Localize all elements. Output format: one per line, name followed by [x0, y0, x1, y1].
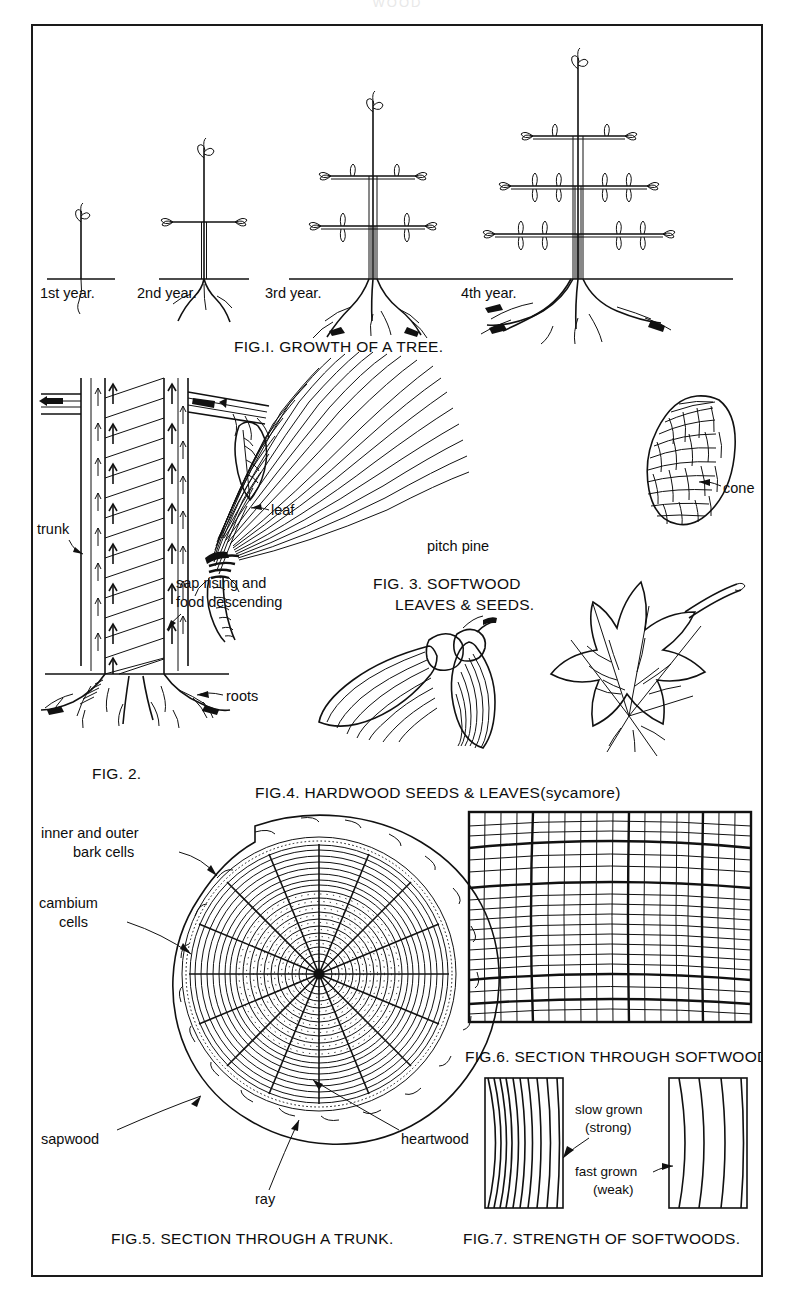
fig4-caption: FIG.4. HARDWOOD SEEDS & LEAVES(sycamore) [255, 784, 621, 801]
fig5-label-cambium-line1: cambium [39, 895, 98, 911]
fig4-left-wing-veins [327, 652, 437, 742]
fig4-samara [319, 616, 497, 748]
plate-frame: 1st year. 2nd year. 3rd year. 4th year. … [31, 24, 763, 1277]
fig6-growth-bands [469, 841, 751, 1004]
fig7-label-fast-weak: (weak) [593, 1182, 634, 1197]
fig2-heartwood-hatch [105, 378, 164, 674]
fig5-label-sapwood: sapwood [41, 1131, 99, 1147]
fig4-sycamore-leaf [551, 582, 745, 756]
fig5-label-heartwood: heartwood [401, 1131, 469, 1147]
fig3-label-cone: cone [723, 480, 754, 496]
figure-2-sap-flow: trunk leaf sap rising and food descendin… [37, 378, 295, 782]
fig2-branch-left [39, 394, 81, 414]
fig2-sap-arrows-inner-left [109, 384, 117, 674]
fig1-stage-label-2: 2nd year. [137, 285, 197, 301]
fig2-label-trunk: trunk [37, 521, 70, 537]
fig6-caption: FIG.6. SECTION THROUGH SOFTWOOD [465, 1048, 761, 1065]
figure-5-trunk-section: inner and outer bark cells cambium cells… [39, 815, 499, 1247]
fig7-label-fast-grown: fast grown [575, 1164, 637, 1179]
fig3-label-pitch-pine: pitch pine [427, 538, 489, 554]
fig3-caption-line2: LEAVES & SEEDS. [395, 596, 534, 613]
fig7-caption: FIG.7. STRENGTH OF SOFTWOODS. [463, 1230, 740, 1247]
fig2-sap-arrows-left [95, 388, 101, 651]
fig1-stage-label-4: 4th year. [461, 285, 517, 301]
fig7-label-slow-grown: slow grown [575, 1102, 643, 1117]
fig3-cone-scales [647, 401, 722, 524]
fig7-label-slow-strong: (strong) [585, 1120, 632, 1135]
fig5-medullary-rays [189, 844, 449, 1104]
fig5-bark-outline [173, 815, 499, 1144]
figure-6-softwood-cells: FIG.6. SECTION THROUGH SOFTWOOD [465, 812, 761, 1065]
fig3-caption-line1: FIG. 3. SOFTWOOD [373, 575, 521, 592]
fig2-label-roots: roots [226, 688, 258, 704]
fig3-cone [647, 396, 735, 525]
fig1-caption: FIG.I. GROWTH OF A TREE. [234, 338, 443, 355]
fig1-stage-label-3: 3rd year. [265, 285, 321, 301]
running-header: WOOD [0, 0, 795, 16]
fig5-caption: FIG.5. SECTION THROUGH A TRUNK. [111, 1230, 394, 1247]
fig5-label-bark-line1: inner and outer [41, 825, 139, 841]
fig5-label-ray: ray [255, 1191, 276, 1207]
fig4-right-wing-veins [456, 654, 489, 748]
fig6-cell-walls-horizontal [469, 821, 751, 1014]
figure-1-growth-of-a-tree: 1st year. 2nd year. 3rd year. 4th year. … [40, 48, 733, 355]
figure-4-hardwood-seeds-leaves: FIG.4. HARDWOOD SEEDS & LEAVES(sycamore) [255, 582, 745, 801]
fig2-caption: FIG. 2. [92, 765, 141, 782]
illustration-page: WOOD [0, 0, 795, 1313]
fig1-stage-label-1: 1st year. [40, 285, 95, 301]
fig7-sample-fast-grown [669, 1078, 747, 1208]
fig2-branch-right [188, 392, 269, 440]
figure-7-strength-of-softwoods: slow grown (strong) fast grown (weak) FI… [463, 1078, 747, 1247]
fig2-label-sap-line2: food descending [176, 594, 282, 610]
fig7-sample-slow-grown [485, 1078, 563, 1208]
running-header-text: WOOD [0, 0, 795, 10]
plate-drawing: 1st year. 2nd year. 3rd year. 4th year. … [33, 26, 761, 1275]
fig5-label-bark-line2: bark cells [73, 844, 134, 860]
fig5-label-cambium-line2: cells [59, 914, 88, 930]
fig2-root-system [41, 674, 230, 728]
fig2-sap-arrows-inner-right [168, 384, 176, 644]
